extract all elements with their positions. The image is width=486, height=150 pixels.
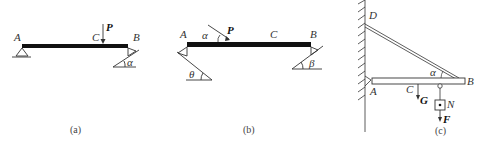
label-c-F: F [442, 113, 451, 125]
force-p-arrow-icon [101, 24, 106, 44]
label-c-alpha: α [430, 66, 436, 78]
label-a-A: A [13, 31, 21, 43]
pin-support-icon [12, 48, 31, 57]
label-a-alpha: α [127, 56, 133, 68]
statics-diagram: A C B P α (a) A α P C B [0, 0, 486, 150]
caption-a: (a) [70, 124, 81, 136]
wall-hatch-icon [358, 0, 365, 132]
incline-roller-support-icon [177, 47, 212, 80]
incline-roller-support-icon [292, 46, 323, 69]
label-c-N: N [446, 98, 455, 110]
label-b-alpha: α [202, 29, 208, 41]
beam-b [187, 42, 311, 47]
label-c-C: C [406, 83, 414, 95]
figure-c: D α B A C G N F (c) [358, 0, 474, 137]
label-c-B: B [467, 75, 474, 87]
figure-b: A α P C B θ β (b) [177, 24, 323, 136]
label-b-B: B [310, 28, 317, 40]
label-a-C: C [92, 31, 100, 43]
label-b-theta: θ [189, 68, 195, 80]
label-b-P: P [227, 24, 234, 36]
label-a-B: B [133, 31, 140, 43]
caption-c: (c) [435, 125, 446, 137]
label-a-P: P [106, 21, 113, 33]
caption-b: (b) [243, 124, 255, 136]
label-b-beta: β [308, 57, 315, 69]
force-f-arrow-icon [438, 110, 442, 122]
figure-a: A C B P α (a) [12, 21, 140, 136]
pulley-icon [438, 84, 442, 88]
beam-ab [372, 78, 465, 84]
label-c-D: D [368, 9, 377, 21]
alpha-arc [441, 71, 443, 78]
label-b-C: C [270, 28, 278, 40]
incline-roller-support-icon [113, 48, 139, 67]
rod-db [365, 24, 459, 79]
label-c-A: A [369, 85, 377, 97]
label-b-A: A [179, 28, 187, 40]
label-c-G: G [420, 94, 428, 106]
beam-a [22, 44, 128, 48]
